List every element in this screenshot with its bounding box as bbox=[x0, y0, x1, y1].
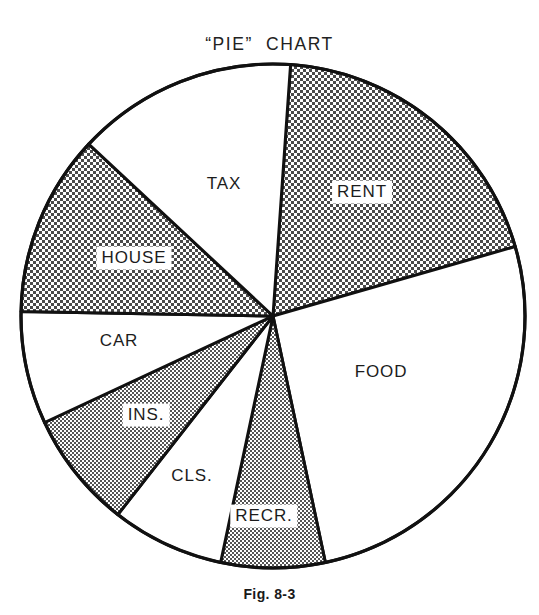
slice-label-recr: RECR. bbox=[230, 505, 297, 528]
slice-label-rent: RENT bbox=[332, 181, 392, 204]
pie-slices-group bbox=[21, 64, 525, 568]
slice-label-car: CAR bbox=[100, 332, 139, 350]
slice-label-tax: TAX bbox=[207, 175, 242, 193]
figure-caption: Fig. 8-3 bbox=[0, 586, 539, 602]
figure-container: “PIE” CHART RENTFOODRECR.CLS.INS.CARHOUS… bbox=[0, 0, 539, 615]
slice-label-ins: INS. bbox=[123, 404, 170, 427]
slice-label-cls: CLS. bbox=[171, 467, 212, 485]
slice-label-house: HOUSE bbox=[97, 247, 172, 270]
slice-label-food: FOOD bbox=[355, 363, 408, 381]
